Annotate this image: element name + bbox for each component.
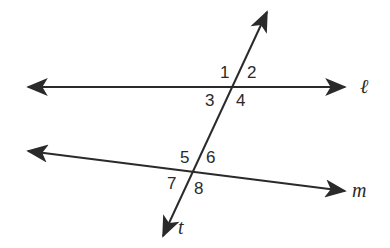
label-line-t: t [178, 216, 184, 238]
angle-label-7: 7 [167, 174, 176, 193]
angle-label-6: 6 [206, 148, 215, 167]
angle-label-8: 8 [194, 179, 203, 198]
angle-label-5: 5 [180, 148, 189, 167]
line-t [163, 12, 267, 236]
angle-label-4: 4 [236, 91, 245, 110]
angle-label-1: 1 [220, 63, 229, 82]
label-line-m: m [352, 179, 366, 201]
angle-label-3: 3 [205, 91, 214, 110]
label-line-l: ℓ [360, 75, 369, 97]
angle-label-2: 2 [247, 63, 256, 82]
diagram-canvas: ℓ m t 1 2 3 4 5 6 7 8 [0, 0, 390, 248]
